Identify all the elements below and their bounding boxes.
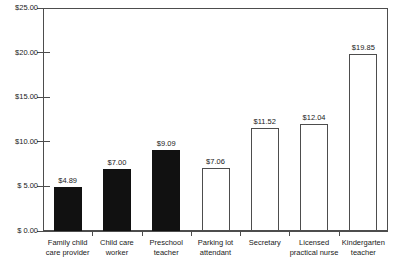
category-label-line: Preschool bbox=[142, 238, 191, 248]
category-label-line: care provider bbox=[43, 248, 92, 258]
category-label-line: Secretary bbox=[240, 238, 289, 248]
y-axis-tick-label: $15.00 bbox=[0, 93, 38, 101]
bar-value-label: $12.04 bbox=[289, 113, 338, 122]
x-axis-separator bbox=[191, 231, 192, 236]
y-axis-tick-label: $ 0.00 bbox=[0, 227, 38, 235]
bar-4 bbox=[202, 168, 230, 231]
bar-6 bbox=[300, 124, 328, 231]
category-label-line: Parking lot bbox=[191, 238, 240, 248]
y-axis-tick-label: $ 5.00 bbox=[0, 182, 38, 190]
category-label-line: attendant bbox=[191, 248, 240, 258]
y-axis-tick bbox=[37, 141, 50, 142]
category-label: Secretary bbox=[240, 238, 289, 248]
category-label: Kindergartenteacher bbox=[339, 238, 388, 257]
category-label-line: Family child bbox=[43, 238, 92, 248]
category-label-line: teacher bbox=[339, 248, 388, 258]
bar-1 bbox=[54, 187, 82, 231]
bar-2 bbox=[103, 169, 131, 231]
category-label: Child careworker bbox=[92, 238, 141, 257]
y-axis-tick bbox=[37, 186, 50, 187]
bar-7 bbox=[349, 54, 377, 231]
x-axis-line bbox=[43, 231, 388, 232]
y-axis-tick-label: $10.00 bbox=[0, 138, 38, 146]
x-axis-separator bbox=[240, 231, 241, 236]
y-axis-tick bbox=[37, 231, 50, 232]
category-label: Family childcare provider bbox=[43, 238, 92, 257]
bar-value-label: $7.06 bbox=[191, 157, 240, 166]
x-axis-separator bbox=[92, 231, 93, 236]
bar-value-label: $11.52 bbox=[240, 117, 289, 126]
bar-value-label: $19.85 bbox=[339, 43, 388, 52]
category-label-line: teacher bbox=[142, 248, 191, 258]
category-label: Preschoolteacher bbox=[142, 238, 191, 257]
bar-value-label: $9.09 bbox=[142, 139, 191, 148]
category-label-line: Licensed bbox=[289, 238, 338, 248]
y-axis-tick-label: $20.00 bbox=[0, 49, 38, 57]
x-axis-separator bbox=[289, 231, 290, 236]
wage-bar-chart: $25.00$20.00$15.00$10.00$ 5.00$ 0.00 $4.… bbox=[0, 0, 398, 266]
bar-value-label: $7.00 bbox=[92, 158, 141, 167]
category-label: Licensedpractical nurse bbox=[289, 238, 338, 257]
category-label: Parking lotattendant bbox=[191, 238, 240, 257]
category-label-line: Child care bbox=[92, 238, 141, 248]
clipped-top-caption bbox=[64, 0, 314, 4]
x-axis-separator bbox=[339, 231, 340, 236]
y-axis-tick-label: $25.00 bbox=[0, 4, 38, 12]
x-axis-separator bbox=[142, 231, 143, 236]
y-axis-tick bbox=[37, 52, 50, 53]
category-label-line: Kindergarten bbox=[339, 238, 388, 248]
category-label-line: practical nurse bbox=[289, 248, 338, 258]
y-axis-line bbox=[43, 8, 44, 232]
bar-3 bbox=[152, 150, 180, 231]
bar-value-label: $4.89 bbox=[43, 176, 92, 185]
y-axis-tick bbox=[37, 97, 50, 98]
y-axis-tick bbox=[37, 8, 50, 9]
bar-5 bbox=[251, 128, 279, 231]
category-label-line: worker bbox=[92, 248, 141, 258]
